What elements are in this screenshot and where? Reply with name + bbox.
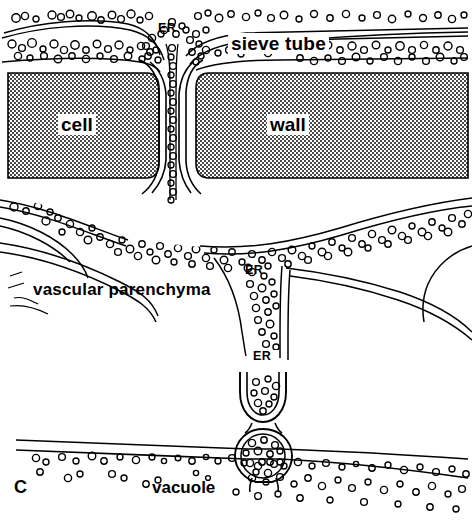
label-vascular-parenchyma: vascular parenchyma: [33, 281, 211, 298]
parenchyma-lower-right: [286, 268, 472, 332]
panel-letter: C: [14, 478, 27, 496]
label-wall: wall: [267, 114, 309, 135]
label-er-middle: ER: [245, 264, 263, 277]
label-er-top: ER: [158, 22, 176, 35]
tonoplast-upper: [16, 440, 468, 459]
parenchyma-sketch-2: [8, 283, 24, 288]
parenchyma-neck-right: [280, 266, 282, 358]
parenchyma-neck-left: [214, 258, 246, 356]
cell-wall-right: [196, 73, 468, 178]
label-vacuole: vacuole: [152, 479, 215, 496]
parenchyma-sketch-1: [10, 272, 22, 276]
label-sieve-tube: sieve tube: [228, 33, 329, 54]
vacuole-particles: [32, 452, 469, 512]
parenchyma-membranes: [0, 198, 472, 360]
parenchyma-neck-right2: [288, 270, 290, 360]
label-er-bottom: ER: [253, 350, 271, 363]
parenchyma-right-pocket: [423, 246, 472, 322]
sieve-tube-membrane-lower-left: [2, 58, 160, 72]
biology-diagram-figure: ER sieve tube cell wall vascular parench…: [0, 0, 472, 521]
label-cell: cell: [58, 114, 96, 135]
parenchyma-upper-right: [200, 198, 472, 247]
er-cisterna-and-vesicle: [235, 372, 292, 492]
parenchyma-sketch-4: [10, 305, 48, 314]
parenchyma-neck-particles: [247, 268, 279, 350]
er-vesicle-particles: [243, 437, 283, 477]
diagram-canvas: [0, 0, 472, 521]
parenchyma-upper-left2: [0, 207, 126, 246]
